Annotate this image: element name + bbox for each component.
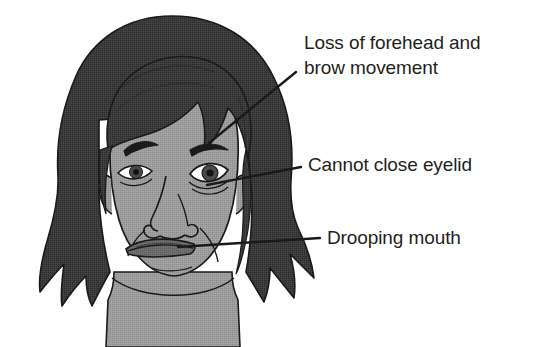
neck-and-shoulders <box>106 272 240 347</box>
callout-label-mouth: Drooping mouth <box>327 225 461 250</box>
diagram-page: Loss of forehead and brow movement Canno… <box>0 0 551 347</box>
callout-label-eyelid: Cannot close eyelid <box>308 152 472 177</box>
callout-label-forehead: Loss of forehead and brow movement <box>304 30 481 80</box>
